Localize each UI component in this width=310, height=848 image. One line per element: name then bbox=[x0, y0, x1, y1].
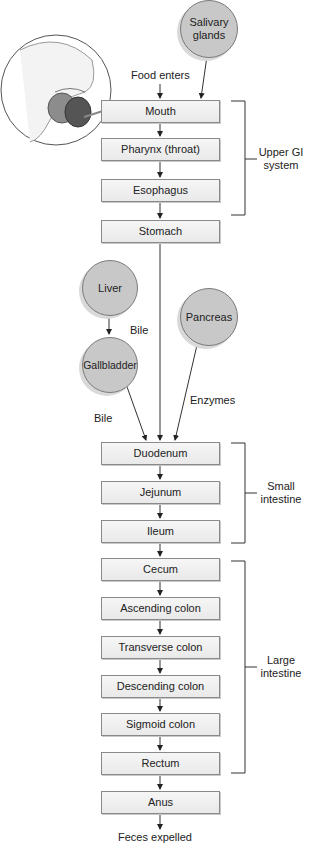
tract-node-ileum: Ileum bbox=[101, 520, 220, 543]
small-intestine-line2: intestine bbox=[261, 493, 302, 505]
tract-node-sigmoid-colon: Sigmoid colon bbox=[101, 713, 220, 736]
large-intestine-line1: Large bbox=[267, 654, 295, 666]
salivary-glands-node: Salivaryglands bbox=[180, 0, 238, 58]
small-intestine-line1: Small bbox=[267, 480, 295, 492]
small-intestine-label: Small intestine bbox=[256, 480, 306, 506]
gallbladder-node: Gallbladder bbox=[82, 337, 138, 393]
enzymes-label: Enzymes bbox=[190, 394, 235, 407]
salivary-label-line1: Salivary bbox=[189, 16, 228, 28]
tract-node-mouth: Mouth bbox=[101, 100, 220, 123]
tract-node-duodenum: Duodenum bbox=[101, 442, 220, 465]
tract-node-anus: Anus bbox=[101, 791, 220, 814]
mouth-illustration bbox=[0, 30, 120, 155]
pancreas-node: Pancreas bbox=[180, 288, 238, 346]
tract-node-esophagus: Esophagus bbox=[101, 179, 220, 202]
tract-node-transverse-colon: Transverse colon bbox=[101, 636, 220, 659]
tract-node-ascending-colon: Ascending colon bbox=[101, 597, 220, 620]
large-intestine-label: Large intestine bbox=[256, 654, 306, 680]
tract-node-jejunum: Jejunum bbox=[101, 481, 220, 504]
large-intestine-line2: intestine bbox=[261, 667, 302, 679]
bile-label-2: Bile bbox=[94, 412, 112, 425]
food-enters-label: Food enters bbox=[131, 69, 190, 82]
tract-node-pharynx: Pharynx (throat) bbox=[101, 138, 220, 161]
salivary-label-line2: glands bbox=[193, 29, 225, 41]
tract-node-stomach: Stomach bbox=[101, 220, 220, 243]
liver-node: Liver bbox=[82, 260, 138, 316]
tract-node-descending-colon: Descending colon bbox=[101, 675, 220, 698]
upper-gi-label: Upper GI system bbox=[256, 146, 306, 172]
feces-expelled-label: Feces expelled bbox=[118, 831, 192, 844]
tract-node-rectum: Rectum bbox=[101, 752, 220, 775]
upper-gi-line2: system bbox=[264, 159, 299, 171]
bile-label-1: Bile bbox=[130, 324, 148, 337]
upper-gi-line1: Upper GI bbox=[259, 146, 304, 158]
tract-node-cecum: Cecum bbox=[101, 558, 220, 581]
